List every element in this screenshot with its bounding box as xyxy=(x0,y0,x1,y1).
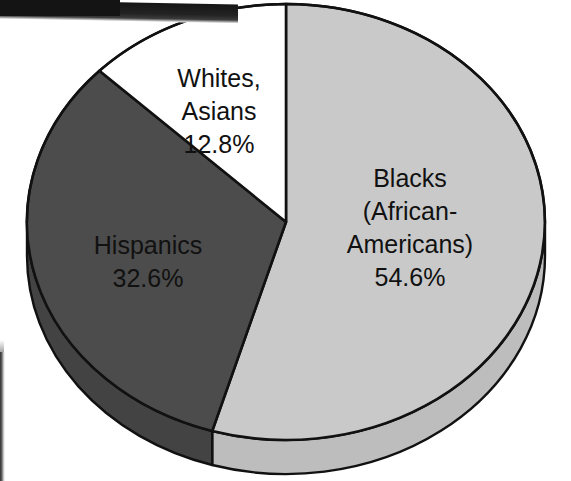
pie-chart-svg: Whites, Asians 12.8% Blacks (African- Am… xyxy=(0,0,571,481)
slice-label-whites-asians: Whites, Asians 12.8% xyxy=(177,64,260,158)
scan-artifact-left-edge xyxy=(0,352,5,481)
slice-label-whites-asians-line1: Whites, xyxy=(177,64,260,92)
slice-label-blacks-line3: Americans) xyxy=(347,230,473,258)
slice-label-blacks-line2: (African- xyxy=(363,197,457,225)
slice-label-hispanics-line1: Hispanics xyxy=(94,231,202,259)
slice-label-whites-asians-line3: 12.8% xyxy=(184,130,255,158)
scan-artifact-top-corner xyxy=(0,0,120,16)
slice-label-whites-asians-line2: Asians xyxy=(181,97,256,125)
slice-label-hispanics-line2: 32.6% xyxy=(113,264,184,292)
pie-chart-figure: Whites, Asians 12.8% Blacks (African- Am… xyxy=(0,0,571,481)
slice-label-blacks-line1: Blacks xyxy=(373,164,447,192)
slice-label-blacks-line4: 54.6% xyxy=(375,263,446,291)
scanned-page: Whites, Asians 12.8% Blacks (African- Am… xyxy=(0,0,571,481)
